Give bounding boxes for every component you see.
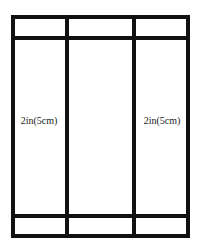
horizontal-rule-bottom-band [11,214,190,218]
vertical-divider-left [65,15,69,238]
right-column-measurement-label: 2in(5cm) [136,115,188,127]
horizontal-rule-top-band [11,36,190,40]
left-column-measurement-label: 2in(5cm) [13,115,65,127]
diagram-canvas: 2in(5cm) 2in(5cm) [0,0,202,250]
